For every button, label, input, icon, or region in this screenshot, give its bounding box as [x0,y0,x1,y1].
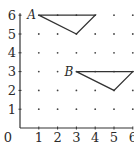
grid-dot [132,108,134,110]
grid-dot [132,52,134,54]
grid-dots [38,14,134,110]
grid-dot [132,90,134,92]
triangle-a [39,15,95,34]
y-tick-label: 1 [8,102,16,117]
grid-dot [38,108,40,110]
y-tick-label: 5 [8,27,16,42]
x-tick-label: 0 [4,130,12,145]
grid-dot [38,52,40,54]
grid-dot [94,90,96,92]
grid-dot [76,52,78,54]
coordinate-grid: AB0123456123456 [0,0,134,148]
triangles [39,15,133,90]
grid-dot [132,14,134,16]
x-tick-label: 2 [53,130,61,145]
x-tick-label: 3 [72,130,80,145]
grid-dot [94,108,96,110]
grid-dot [94,52,96,54]
vertex-label-b: B [64,65,74,79]
x-tick-label: 4 [91,130,99,145]
grid-dot [76,90,78,92]
grid-dot [38,71,40,73]
grid-dot [38,33,40,35]
axis-labels: AB0123456123456 [4,8,134,145]
x-tick-label: 5 [110,130,118,145]
triangle-b [76,72,132,91]
grid-dot [57,108,59,110]
grid-dot [57,90,59,92]
grid-dot [57,71,59,73]
grid-dot [132,33,134,35]
grid-dot [94,33,96,35]
grid-dot [57,33,59,35]
x-tick-label: 1 [35,130,43,145]
y-tick-label: 4 [8,45,16,60]
vertex-label-a: A [26,8,36,22]
grid-dot [57,52,59,54]
y-tick-label: 2 [8,83,16,98]
grid-dot [113,33,115,35]
grid-dot [76,108,78,110]
y-tick-label: 6 [8,8,16,23]
y-tick-label: 3 [8,64,16,79]
grid-dot [113,108,115,110]
grid-dot [38,90,40,92]
grid-dot [113,14,115,16]
x-tick-label: 6 [129,130,134,145]
grid-dot [113,52,115,54]
